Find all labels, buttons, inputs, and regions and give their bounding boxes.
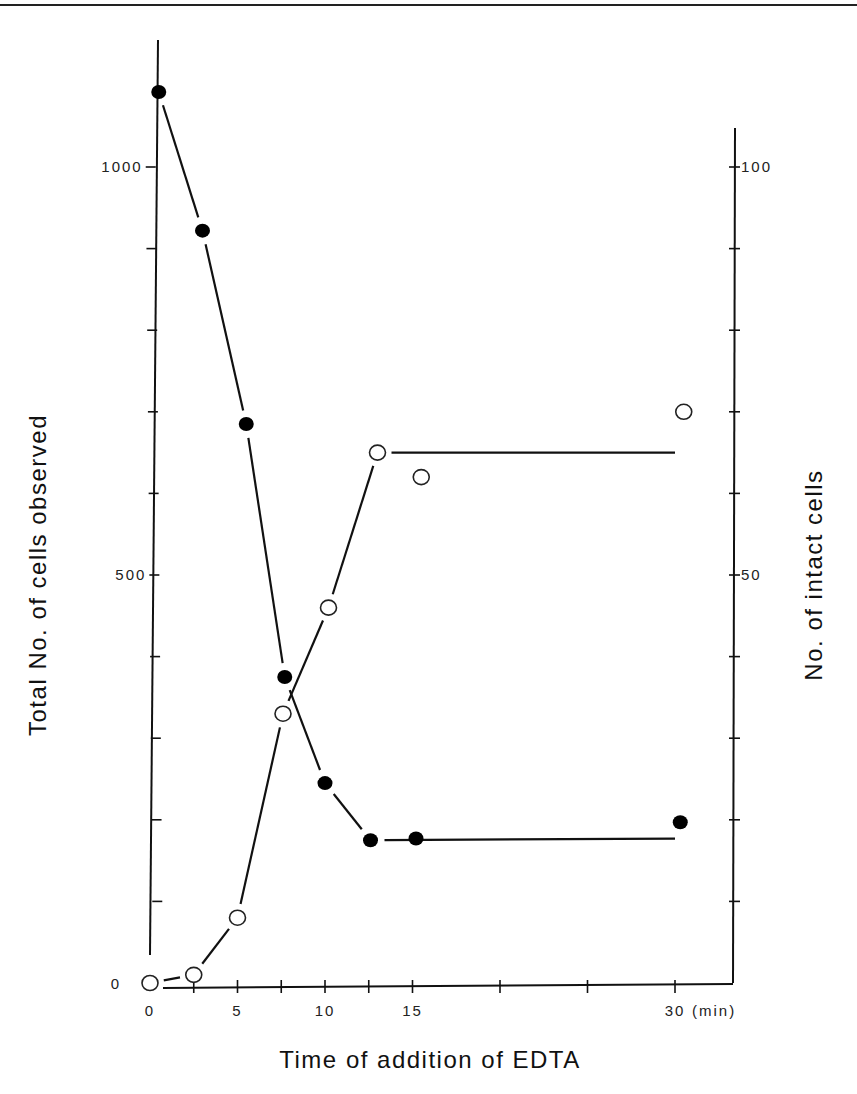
open-circle-point [142, 976, 158, 991]
open-circle-point [676, 404, 692, 419]
tick-labels: 500100005010005101530 [101, 158, 772, 1019]
series-1-line-segment [163, 105, 198, 217]
axes [146, 40, 740, 993]
filled-circle-point [239, 417, 254, 431]
series-lines [163, 105, 675, 980]
series-2-line-segment [241, 727, 280, 904]
x-axis-title: Time of addition of EDTA [279, 1046, 580, 1073]
filled-circle-point [363, 833, 378, 847]
left-axis-title: Total No. of cells observed [24, 414, 51, 736]
left-y-tick-label: 500 [115, 566, 146, 583]
x-unit-label: (min) [692, 1002, 736, 1019]
series-1-line-segment [290, 690, 320, 770]
right-y-tick-label: 50 [741, 566, 762, 583]
series-2-line-segment [202, 929, 229, 964]
filled-circle-point [673, 815, 688, 829]
series-1-line-segment [384, 839, 675, 841]
filled-circle-point [277, 670, 292, 684]
filled-circle-point [409, 832, 424, 846]
series-2-line-segment [333, 466, 374, 594]
right-axis-title: No. of intact cells [800, 469, 827, 680]
series-1-line-segment [334, 794, 362, 829]
x-tick-label: 10 [315, 1002, 336, 1019]
open-circle-point [186, 967, 202, 982]
filled-circle-point [318, 776, 333, 790]
left-y-zero-label: 0 [111, 975, 121, 992]
filled-circle-point [195, 224, 210, 238]
x-tick-label: 5 [232, 1002, 242, 1019]
x-tick-label: 0 [145, 1002, 155, 1019]
right-axis-line [733, 128, 735, 983]
open-circle-point [230, 910, 246, 925]
x-tick-label: 15 [402, 1002, 423, 1019]
series-1-line-segment [248, 438, 282, 663]
series-1-line-segment [206, 244, 244, 410]
open-circle-point [275, 706, 291, 721]
right-y-tick-label: 100 [741, 158, 772, 175]
open-circle-point [413, 470, 429, 485]
left-axis-line [150, 40, 158, 955]
series-2-line-segment [289, 621, 323, 701]
dual-axis-line-chart: 500100005010005101530 Total No. of cells… [0, 0, 857, 1094]
x-tick-label: 30 [665, 1002, 686, 1019]
open-circle-point [370, 445, 386, 460]
x-axis-line [163, 984, 733, 988]
left-y-tick-label: 1000 [101, 158, 142, 175]
data-points [142, 85, 692, 991]
open-circle-point [321, 600, 337, 615]
series-2-line-segment [164, 977, 180, 980]
filled-circle-point [151, 85, 166, 99]
